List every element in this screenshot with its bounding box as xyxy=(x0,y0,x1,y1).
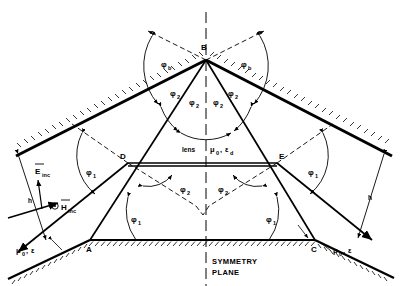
left-material-label: μ 0 , ε xyxy=(16,246,35,257)
lens-epsilon-symbol: ε xyxy=(225,145,229,154)
symmetry-plane-line1: SYMMETRY xyxy=(212,257,257,266)
angle-phi1-d-outer-symbol: φ xyxy=(86,168,92,177)
point-label-e: E xyxy=(279,152,285,161)
angle-phi-b-right-subscript: b xyxy=(248,65,252,71)
angle-phi1-a-subscript: 1 xyxy=(138,220,141,226)
angle-phi1-d-outer-subscript: 1 xyxy=(93,173,96,179)
point-label-a: A xyxy=(86,245,92,254)
lens-material-label: lens μ 0 , ε d xyxy=(182,145,233,156)
angle-phi2-d-inner-subscript: 2 xyxy=(187,190,190,196)
angle-label-phi1-a: φ 1 xyxy=(131,215,141,226)
angle-arcs-base xyxy=(126,197,278,240)
incident-e-field-label: E inc xyxy=(35,164,50,178)
symmetry-plane-line2: PLANE xyxy=(212,268,239,277)
e-inc-subscript: inc xyxy=(42,172,50,178)
right-separator: , xyxy=(343,246,345,255)
angle-label-phi-b-left: φ b xyxy=(161,60,172,71)
right-mu-subscript: 0 xyxy=(339,251,342,257)
angle-phi2-e-inner-symbol: φ xyxy=(218,185,224,194)
angle-label-phi2-e-inner: φ 2 xyxy=(218,185,228,196)
angle-phi1-c-symbol: φ xyxy=(266,215,272,224)
angle-phi2-b-left-subscript: 2 xyxy=(177,94,180,100)
e-inc-symbol: E xyxy=(35,167,41,176)
right-mu-symbol: μ xyxy=(333,246,338,255)
angle-phi2-e-inner-subscript: 2 xyxy=(225,190,228,196)
height-dimension-left xyxy=(18,154,46,240)
lens-aperture-de xyxy=(128,163,277,166)
angle-phi1-e-outer-symbol: φ xyxy=(308,168,314,177)
lens-separator: , xyxy=(220,145,222,154)
angle-label-phi1-e-outer: φ 1 xyxy=(308,168,318,179)
height-label-left: h xyxy=(28,197,32,204)
lens-geometry-diagram: B D E A C φ b φ b φ 2 φ 2 φ 2 φ 2 φ 1 φ … xyxy=(0,0,401,286)
angle-label-phi2-b-inner-left: φ 2 xyxy=(189,98,199,109)
lens-ray-lines xyxy=(90,60,315,240)
lens-epsilon-subscript: d xyxy=(230,150,233,156)
angle-label-phi2-b-left: φ 2 xyxy=(170,89,180,100)
point-label-d: D xyxy=(120,152,126,161)
angle-phi2-b-left-symbol: φ xyxy=(170,89,176,98)
angle-phi2-b-inner-right-subscript: 2 xyxy=(220,103,223,109)
point-label-b: B xyxy=(201,43,207,52)
normal-construction-apex xyxy=(196,206,209,215)
angle-phi2-b-inner-left-subscript: 2 xyxy=(196,103,199,109)
ground-plane-ac xyxy=(89,240,315,246)
angle-label-phi1-d-outer: φ 1 xyxy=(86,168,96,179)
left-mu-subscript: 0 xyxy=(22,251,25,257)
angle-phi-b-left-symbol: φ xyxy=(161,60,167,69)
material-leader-lines xyxy=(52,225,330,250)
lens-mu-subscript: 0 xyxy=(216,150,219,156)
angle-phi2-b-right-symbol: φ xyxy=(228,89,234,98)
point-label-c: C xyxy=(311,245,317,254)
angle-phi1-a-symbol: φ xyxy=(131,215,137,224)
lower-right-conductor xyxy=(315,240,394,281)
angle-phi2-d-inner-symbol: φ xyxy=(180,185,186,194)
upper-right-conductor xyxy=(206,52,392,156)
angle-phi1-c-subscript: 1 xyxy=(273,220,276,226)
right-epsilon-symbol: ε xyxy=(348,246,352,255)
lens-mu-symbol: μ xyxy=(210,145,215,154)
angle-label-phi-b-right: φ b xyxy=(241,60,252,71)
angle-label-phi1-c: φ 1 xyxy=(266,215,276,226)
angle-phi-b-right-symbol: φ xyxy=(241,60,247,69)
angle-phi1-e-outer-subscript: 1 xyxy=(315,173,318,179)
angle-phi2-b-inner-left-symbol: φ xyxy=(189,98,195,107)
angle-label-phi2-b-inner-right: φ 2 xyxy=(213,98,223,109)
h-inc-subscript: inc xyxy=(68,208,76,214)
symmetry-plane-label: SYMMETRY PLANE xyxy=(212,257,257,277)
left-separator: , xyxy=(26,246,28,255)
angle-phi2-b-right-subscript: 2 xyxy=(235,94,238,100)
left-mu-symbol: μ xyxy=(16,246,21,255)
h-inc-symbol: H xyxy=(61,203,67,212)
height-label-right: h xyxy=(368,194,372,201)
angle-phi2-b-inner-right-symbol: φ xyxy=(213,98,219,107)
lens-word: lens xyxy=(182,146,195,153)
diagram-canvas: B D E A C φ b φ b φ 2 φ 2 φ 2 φ 2 φ 1 φ … xyxy=(0,0,401,286)
angle-label-phi2-d-inner: φ 2 xyxy=(180,185,190,196)
left-epsilon-symbol: ε xyxy=(31,246,35,255)
